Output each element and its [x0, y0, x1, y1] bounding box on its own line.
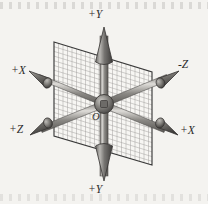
axes-illustration [0, 0, 208, 204]
arrowhead-y-up [96, 27, 113, 65]
axis-label-y-positive-top: +Y [88, 9, 102, 21]
arrowhead-x-upper-left [29, 71, 53, 89]
axis-label-x-positive-lower-right: +X [180, 125, 195, 137]
arrowhead-x-lower-right [154, 117, 178, 135]
axis-label-z-negative-upper-right: -Z [178, 59, 188, 71]
origin-label: O [92, 112, 100, 123]
axis-label-x-positive-upper-left: +X [11, 65, 26, 77]
axis-label-y-positive-bottom: +Y [88, 184, 102, 196]
coordinate-axes-figure: +Y +Y +X -Z +Z +X O [0, 0, 208, 204]
arrowhead-y-down [96, 144, 113, 182]
arrowhead-z-upper-right [155, 71, 179, 89]
axis-label-z-positive-lower-left: +Z [9, 124, 23, 136]
